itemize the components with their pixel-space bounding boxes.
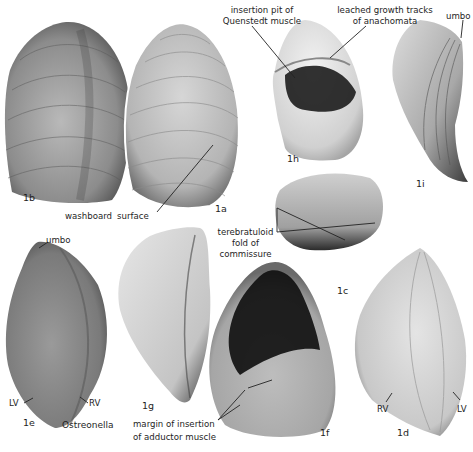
annotation-surface-text: surface [117,211,149,221]
annotation-terebratuloid-line2: fold of [213,238,278,248]
annotation-umbo-1e: umbo [46,235,71,245]
shell-1f [209,262,335,437]
shell-1g [118,227,210,402]
figure-label-1g: 1g [142,401,154,411]
figure-label-1i: 1i [416,179,425,189]
shell-illustrations [0,0,473,452]
annotation-leached-line2: of anachomata [330,16,440,26]
figure-label-1a: 1a [215,204,227,214]
annotation-washboard: washboard [65,211,112,221]
fossil-plate: 1b 1a 1h 1i 1c 1e 1g 1f 1d insertion pit… [0,0,473,452]
figure-label-1h: 1h [287,154,299,164]
genus-name: Ostreonella [62,420,114,430]
annotation-margin-line1: margin of insertion [133,419,215,429]
shell-1a [125,23,239,208]
annotation-rv-1d: RV [377,404,388,414]
annotation-lv-1d: LV [457,404,467,414]
figure-label-1b: 1b [23,193,35,203]
shell-1i [392,20,468,182]
annotation-lv-1e: LV [9,398,19,408]
shell-1b [5,22,130,203]
annotation-rv-1e: RV [89,398,100,408]
annotation-umbo-1i: umbo [446,11,471,21]
figure-label-1e: 1e [23,418,35,428]
figure-label-1d: 1d [397,428,409,438]
figure-label-1f: 1f [320,428,329,438]
annotation-insertion-pit-line1: insertion pit of [207,5,317,15]
annotation-leached-line1: leached growth tracks [330,5,440,15]
annotation-terebratuloid-line1: terebratuloid [213,227,278,237]
figure-label-1c: 1c [337,286,348,296]
shell-1d [355,248,466,436]
shell-1c [275,174,383,251]
annotation-margin-line2: of adductor muscle [133,432,216,442]
annotation-terebratuloid-line3: commissure [213,249,278,259]
annotation-insertion-pit-line2: Quenstedt muscle [207,16,317,26]
